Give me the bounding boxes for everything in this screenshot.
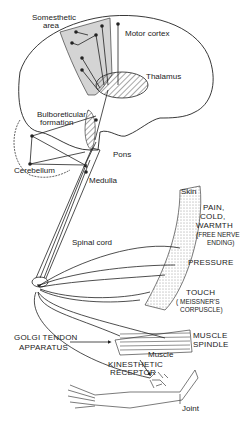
- label-bulboreticular-2: formation: [40, 118, 73, 127]
- label-muscle-spindle-2: SPINDLE: [193, 340, 229, 349]
- label-pain: PAIN,: [203, 203, 224, 212]
- label-muscle: Muscle: [148, 350, 173, 359]
- label-apparatus: APPARATUS: [19, 343, 68, 352]
- label-free-nerve: (FREE NERVE: [196, 231, 240, 238]
- label-pressure: PRESSURE: [188, 258, 234, 267]
- label-spinal-cord: Spinal cord: [72, 238, 112, 247]
- label-warmth: WARMTH: [196, 221, 233, 230]
- label-motor-cortex: Motor cortex: [125, 29, 169, 38]
- label-touch: TOUCH: [186, 288, 215, 297]
- label-thalamus: Thalamus: [146, 72, 181, 81]
- sensory-pathway-diagram: Somesthetic area Motor cortex Thalamus B…: [0, 0, 246, 422]
- label-muscle-spindle: MUSCLE: [193, 331, 228, 340]
- bulboreticular-shape: [85, 110, 95, 150]
- label-joint: Joint: [182, 404, 199, 413]
- label-cerebellum: Cerebellum: [14, 166, 55, 175]
- label-corpuscle: CORPUSCLE): [180, 306, 223, 313]
- label-meissners: ( MEISSNER'S: [176, 298, 220, 305]
- label-receptor: RECEPTOR: [110, 368, 156, 377]
- label-cold: COLD,: [200, 212, 225, 221]
- label-golgi-tendon: GOLGI TENDON: [14, 333, 78, 342]
- label-somesthetic-area-2: area: [43, 21, 59, 30]
- label-medulla: Medulla: [89, 176, 117, 185]
- label-ending: ENDING): [207, 239, 234, 246]
- label-pons: Pons: [113, 150, 131, 159]
- label-skin: Skin: [181, 187, 197, 196]
